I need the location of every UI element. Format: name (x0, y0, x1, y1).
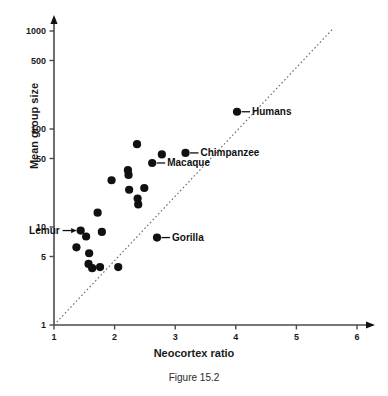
data-point-macaque (148, 159, 156, 167)
data-point-gorilla (153, 233, 161, 241)
y-tick-label-1000: 1000 (26, 26, 46, 36)
y-tick-label-500: 500 (31, 56, 46, 66)
data-point-13 (125, 186, 133, 194)
data-point-5 (88, 264, 96, 272)
x-axis-arrow (366, 321, 375, 328)
data-point-3 (85, 249, 93, 257)
y-axis-title: Mean group size (28, 66, 40, 186)
x-axis-title: Neocortex ratio (0, 347, 388, 359)
data-point-2 (82, 232, 90, 240)
data-point-10 (114, 263, 122, 271)
leader-arrow-lemur (71, 228, 76, 233)
data-point-14 (133, 140, 141, 148)
data-point-12 (124, 171, 132, 179)
data-point-16 (134, 200, 142, 208)
data-point-9 (107, 176, 115, 184)
point-annotations: LemurMacaqueGorillaChimpanzeeHumans (29, 106, 292, 243)
scatter-plot: 1510501005001000123456 LemurMacaqueGoril… (0, 0, 388, 396)
data-point-0 (72, 243, 80, 251)
data-point-7 (96, 263, 104, 271)
y-tick-label-5: 5 (41, 252, 46, 262)
x-tick-label-4: 4 (233, 332, 238, 342)
x-tick-label-3: 3 (173, 332, 178, 342)
data-point-17 (140, 184, 148, 192)
axes: 1510501005001000123456 (26, 15, 375, 342)
annotation-label-macaque: Macaque (167, 157, 210, 168)
data-point-20 (158, 150, 166, 158)
y-axis-arrow (50, 15, 57, 24)
x-tick-label-6: 6 (354, 332, 359, 342)
data-point-8 (98, 228, 106, 236)
figure-container: 1510501005001000123456 LemurMacaqueGoril… (0, 0, 388, 396)
trend-line (54, 29, 333, 325)
data-point-6 (94, 209, 102, 217)
x-tick-label-2: 2 (112, 332, 117, 342)
annotation-label-humans: Humans (252, 106, 292, 117)
annotation-label-gorilla: Gorilla (172, 232, 204, 243)
x-tick-label-5: 5 (294, 332, 299, 342)
y-tick-label-1: 1 (41, 320, 46, 330)
annotation-label-lemur: Lemur (29, 225, 60, 236)
figure-caption: Figure 15.2 (0, 372, 388, 383)
annotation-label-chimpanzee: Chimpanzee (201, 147, 260, 158)
data-point-humans (233, 108, 241, 116)
data-point-chimpanzee (181, 149, 189, 157)
data-points (72, 108, 241, 273)
trend-line-dotted (54, 29, 333, 325)
x-tick-label-1: 1 (51, 332, 56, 342)
